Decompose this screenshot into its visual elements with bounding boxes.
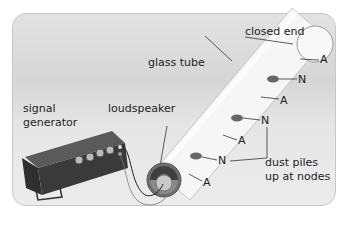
loudspeaker <box>147 163 181 197</box>
dust-pile-1 <box>267 76 279 83</box>
marker-antinode: A <box>320 53 328 66</box>
marker-node: N <box>218 154 226 167</box>
label-closed-end: closed end <box>245 25 305 38</box>
marker-antinode: A <box>203 176 211 189</box>
dust-pile-3 <box>190 153 202 160</box>
marker-node: N <box>298 73 306 86</box>
signal-generator <box>22 131 128 200</box>
label-glass-tube: glass tube <box>148 56 205 69</box>
label-loudspeaker: loudspeaker <box>108 102 176 115</box>
label-dust-line2: up at nodes <box>265 170 330 183</box>
marker-node: N <box>261 114 269 127</box>
label-signal: signal <box>23 102 56 115</box>
standing-wave-diagram: closed end glass tube signal generator l… <box>0 0 346 229</box>
label-dust-line1: dust piles <box>265 156 318 169</box>
label-generator: generator <box>23 116 78 129</box>
marker-antinode: A <box>280 94 288 107</box>
dust-pile-2 <box>231 115 243 122</box>
marker-antinode: A <box>238 134 246 147</box>
